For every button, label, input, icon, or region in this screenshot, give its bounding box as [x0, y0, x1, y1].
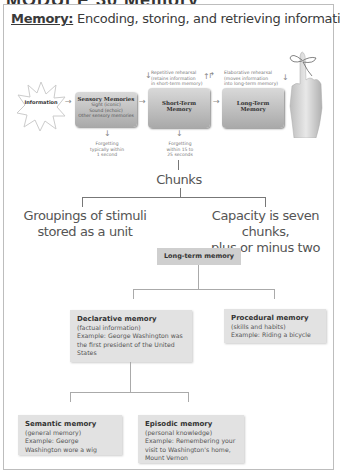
chunks-groupings-text: Groupings of stimuli stored as a unit	[20, 208, 150, 240]
tree-line	[274, 289, 275, 299]
connector-line	[82, 197, 83, 207]
stm-title: Memory	[148, 106, 210, 112]
box-sub: (skills and habits)	[231, 323, 319, 332]
box-title: Declarative memory	[77, 315, 185, 324]
arrow-down-icon: ↓	[104, 130, 111, 138]
box-example: Example: Riding a bicycle	[231, 331, 319, 340]
arrow-right-icon: →	[139, 98, 146, 106]
connector-line	[180, 188, 181, 197]
chunks-title: Chunks	[148, 172, 210, 188]
box-sub: (factual information)	[77, 324, 185, 333]
text-line: Groupings of stimuli	[20, 208, 150, 224]
tree-line	[198, 265, 199, 289]
tree-line	[70, 392, 71, 402]
note-line: 25 seconds	[158, 152, 202, 158]
information-label: Information	[20, 99, 62, 105]
section-header: Memory: Encoding, storing, and retrievin…	[11, 11, 340, 26]
note-line: into long-term memory)	[224, 81, 282, 87]
episodic-memory-box: Episodic memory (personal knowledge) Exa…	[138, 415, 244, 463]
tree-line	[70, 392, 189, 393]
box-title: Episodic memory	[145, 420, 237, 429]
sensory-line: Other sensory memories	[75, 113, 137, 119]
note-line: in short-term memory)	[151, 81, 209, 87]
declarative-memory-box: Declarative memory (factual information)…	[70, 310, 192, 362]
long-term-memory-box: Long-Term Memory	[222, 88, 284, 128]
header-keyword: Memory:	[11, 11, 73, 26]
procedural-memory-box: Procedural memory (skills and habits) Ex…	[224, 309, 326, 343]
tree-line	[130, 362, 131, 392]
box-title: Semantic memory	[25, 420, 115, 429]
forgetting-sensory-note: Forgetting typically within 1 second	[85, 141, 129, 158]
connector-line	[178, 160, 179, 170]
box-example: Example: Remembering your visit to Washi…	[145, 437, 237, 463]
connector-line	[82, 197, 266, 198]
sensory-memories-box: Sensory Memories Sight (iconic) Sound (e…	[75, 92, 137, 127]
repetitive-rehearsal-note: Repetitive rehearsal (retains informatio…	[151, 70, 209, 87]
header-text: Encoding, storing, and retrieving inform…	[73, 11, 340, 26]
box-title: Procedural memory	[231, 314, 319, 323]
arrow-right-icon: ↱	[208, 72, 215, 80]
arrow-down-icon: ↓	[176, 130, 183, 138]
arrow-right-icon: →	[213, 98, 220, 106]
starburst-icon	[16, 80, 66, 132]
forgetting-stm-note: Forgetting within 15 to 25 seconds	[158, 141, 202, 158]
semantic-memory-box: Semantic memory (general memory) Example…	[18, 415, 122, 455]
box-example: Example: George Washington wore a wig	[25, 437, 115, 454]
box-example: Example: George Washington was the first…	[77, 332, 185, 358]
text-line: Capacity is seven chunks,	[198, 208, 333, 240]
hand-string-finger-icon	[288, 28, 332, 138]
note-line: 1 second	[85, 152, 129, 158]
short-term-memory-box: Short-Term Memory	[148, 88, 210, 128]
box-sub: (general memory)	[25, 429, 115, 438]
tree-line	[188, 392, 189, 402]
tree-line	[133, 289, 275, 290]
text-line: stored as a unit	[20, 224, 150, 240]
tree-line	[133, 289, 134, 299]
arrow-right-icon: →	[65, 98, 72, 106]
box-sub: (personal knowledge)	[145, 429, 237, 438]
connector-line	[265, 197, 266, 207]
ltm-title: Memory	[222, 106, 284, 112]
elaborative-rehearsal-note: Elaborative rehearsal (moves information…	[224, 70, 282, 87]
long-term-memory-root: Long-term memory	[157, 248, 241, 265]
